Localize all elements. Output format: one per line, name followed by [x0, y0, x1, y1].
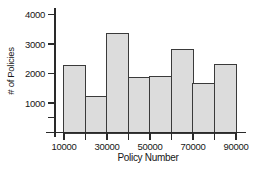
x-tick — [106, 133, 107, 140]
x-tick — [192, 133, 193, 140]
histogram-bar — [149, 76, 172, 134]
x-tick — [85, 133, 86, 140]
x-tick-label: 10000 — [49, 141, 79, 152]
histogram-bar — [63, 65, 86, 133]
x-tick-label: 70000 — [178, 141, 208, 152]
x-tick-label: 30000 — [92, 141, 122, 152]
x-tick — [235, 133, 236, 140]
y-tick — [48, 14, 55, 15]
x-tick-label: 90000 — [221, 141, 251, 152]
x-axis-line — [46, 132, 246, 133]
x-axis-title: Policy Number — [88, 152, 208, 163]
x-tick — [128, 133, 129, 140]
histogram-bar — [106, 33, 129, 134]
x-tick — [214, 133, 215, 140]
y-tick — [48, 102, 55, 103]
y-axis-title: # of Policies — [5, 36, 17, 106]
x-tick — [149, 133, 150, 140]
y-tick-label: 4000 — [0, 9, 45, 20]
histogram-bar — [214, 64, 237, 134]
x-tick-label: 50000 — [135, 141, 165, 152]
y-tick — [48, 43, 55, 44]
histogram-figure: 1000200030004000100003000050000700009000… — [0, 0, 254, 173]
y-tick — [48, 73, 55, 74]
x-tick — [63, 133, 64, 140]
x-tick — [171, 133, 172, 140]
histogram-bar — [171, 49, 194, 134]
y-tick — [48, 117, 55, 118]
histogram-bar — [192, 83, 215, 134]
histogram-bar — [85, 96, 108, 133]
plot-area: 1000200030004000100003000050000700009000… — [0, 0, 254, 173]
histogram-bar — [128, 77, 151, 134]
